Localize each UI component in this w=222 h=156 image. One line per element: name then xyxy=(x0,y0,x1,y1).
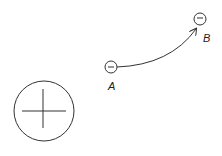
path-arrow-a-to-b xyxy=(117,29,196,67)
diagram-canvas: A B xyxy=(0,0,222,156)
plus-icon xyxy=(22,89,66,128)
label-a: A xyxy=(108,81,115,92)
diagram-svg xyxy=(0,0,222,156)
negative-charge-a xyxy=(105,61,117,73)
negative-charge-b xyxy=(194,13,206,25)
positive-source-charge xyxy=(14,81,74,141)
label-b: B xyxy=(203,33,210,44)
